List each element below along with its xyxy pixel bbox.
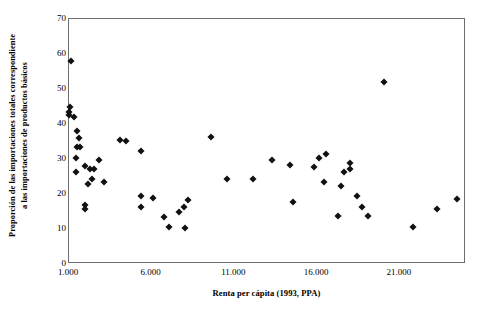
data-point <box>161 214 168 221</box>
data-point <box>68 57 75 64</box>
data-point <box>71 114 78 121</box>
y-axis-title-container: Proporción de las importaciones totales … <box>0 0 38 270</box>
data-point <box>321 179 328 186</box>
y-axis-title-line-1: Proporción de las importaciones totales … <box>9 33 18 236</box>
data-point <box>364 213 371 220</box>
y-axis-tick-label: 40 <box>44 119 66 128</box>
data-point <box>138 203 145 210</box>
data-point <box>149 194 156 201</box>
plot-area <box>68 18 465 263</box>
data-point <box>81 206 88 213</box>
data-point <box>287 161 294 168</box>
data-point <box>310 163 317 170</box>
data-point <box>268 157 275 164</box>
x-axis-title: Renta per cápita (1993, PPA) <box>68 288 465 298</box>
data-point <box>410 223 417 230</box>
data-point <box>73 154 80 161</box>
data-point <box>224 175 231 182</box>
data-point <box>175 208 182 215</box>
x-axis-tick-label: 11.000 <box>203 268 263 277</box>
data-point <box>453 195 460 202</box>
data-point <box>74 127 81 134</box>
x-axis-tick-label: 21.000 <box>369 268 429 277</box>
data-point <box>334 213 341 220</box>
x-axis-tick-label: 6.000 <box>121 268 181 277</box>
data-point <box>77 144 84 151</box>
data-point <box>323 151 330 158</box>
y-axis-tick-label: 70 <box>44 14 66 23</box>
data-point <box>184 196 191 203</box>
data-point <box>101 179 108 186</box>
data-point <box>95 157 102 164</box>
data-point <box>337 182 344 189</box>
data-point <box>180 203 187 210</box>
x-axis-tick-label: 1.000 <box>38 268 98 277</box>
y-axis-tick-label: 10 <box>44 224 66 233</box>
y-axis-tick-label: 50 <box>44 84 66 93</box>
data-point <box>138 147 145 154</box>
data-point <box>122 137 129 144</box>
data-point <box>381 78 388 85</box>
data-point <box>290 199 297 206</box>
data-point <box>166 223 173 230</box>
scatter-chart-figure: Proporción de las importaciones totales … <box>0 0 485 318</box>
x-axis-tick-labels: 1.0006.00011.00016.00021.000 <box>0 268 485 282</box>
y-axis-tick-label: 60 <box>44 49 66 58</box>
data-point <box>358 203 365 210</box>
y-axis-tick-label: 20 <box>44 189 66 198</box>
data-point <box>90 165 97 172</box>
data-point <box>138 193 145 200</box>
data-point <box>73 168 80 175</box>
x-axis-tick-label: 16.000 <box>286 268 346 277</box>
data-point <box>316 154 323 161</box>
data-point <box>207 133 214 140</box>
data-point-layer <box>69 19 464 262</box>
y-axis-title-line-2: a las importaciones de productos básicos <box>19 33 31 236</box>
y-axis-title: Proporción de las importaciones totales … <box>8 33 31 236</box>
data-point <box>249 175 256 182</box>
data-point <box>76 134 83 141</box>
data-point <box>354 193 361 200</box>
data-point <box>181 224 188 231</box>
data-point <box>434 206 441 213</box>
y-axis-tick-label: 30 <box>44 154 66 163</box>
